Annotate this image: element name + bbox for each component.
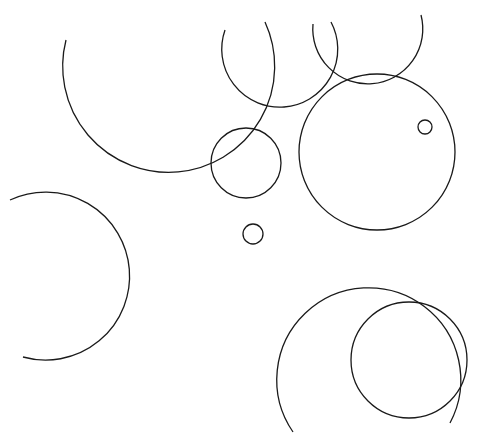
arc-top-right xyxy=(313,15,423,84)
circle-tiny-right xyxy=(418,120,432,134)
arc-top-middle xyxy=(222,22,338,107)
circle-small-middle xyxy=(243,224,263,244)
arc-left xyxy=(10,192,130,360)
circle-right-large xyxy=(299,74,455,230)
arc-bottom-large xyxy=(277,288,461,432)
circle-bottom-right xyxy=(351,302,467,418)
circle-drawing-canvas xyxy=(0,0,477,441)
arc-top-left-large xyxy=(63,22,275,172)
